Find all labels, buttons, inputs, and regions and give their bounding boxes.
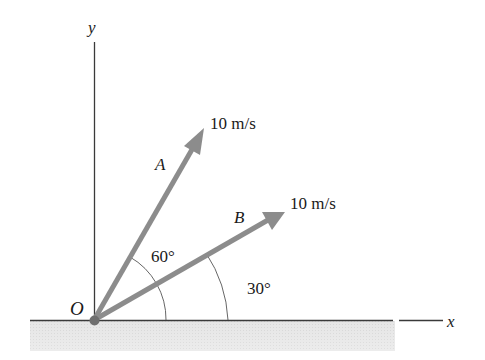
angle-30-label: 30° bbox=[247, 279, 271, 298]
y-axis-label: y bbox=[86, 18, 96, 37]
vector-a-magnitude: 10 m/s bbox=[210, 114, 256, 133]
angle-60-label: 60° bbox=[151, 247, 175, 266]
vector-diagram: x y O A 10 m/s B 10 m/s 60° 30° bbox=[0, 0, 485, 360]
origin-label: O bbox=[70, 298, 84, 319]
x-axis-label: x bbox=[446, 312, 455, 331]
vector-b-label: B bbox=[234, 208, 245, 227]
ground-surface bbox=[30, 321, 395, 351]
vector-b-magnitude: 10 m/s bbox=[290, 194, 336, 213]
origin-dot bbox=[90, 316, 100, 326]
vector-a-label: A bbox=[154, 155, 166, 174]
angle-arc-30 bbox=[206, 253, 228, 320]
